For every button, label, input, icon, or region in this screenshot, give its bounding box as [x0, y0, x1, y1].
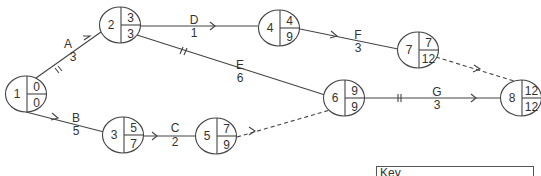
node-latest-time: 12: [422, 52, 436, 66]
activity-e-duration: 6: [237, 71, 244, 85]
node-id: 4: [267, 21, 274, 35]
node-earliest-time: 5: [130, 121, 137, 135]
dummy-activity-5-6: [237, 110, 330, 137]
arrowhead-icon: [473, 65, 480, 72]
node-id: 6: [332, 91, 339, 105]
event-node: 81212: [501, 80, 541, 116]
node-earliest-time: 0: [33, 80, 40, 94]
activity-c-duration: 2: [172, 135, 179, 149]
event-node: 579: [196, 118, 237, 154]
activity-d-label: D: [190, 13, 199, 27]
node-latest-time: 3: [127, 27, 134, 41]
activity-b-arrow: [26, 112, 104, 132]
dummy-activity-7-8: [436, 57, 514, 81]
activity-d-arrow: [140, 22, 258, 30]
node-latest-time: 7: [130, 137, 137, 151]
critical-tick-icon: [55, 66, 62, 73]
activity-c-arrow: [143, 132, 196, 140]
event-node: 357: [103, 117, 144, 153]
activity-e-arrow: [137, 35, 325, 95]
activity-c-label: C: [171, 121, 180, 135]
event-node: 449: [259, 10, 300, 46]
node-earliest-time: 9: [351, 84, 358, 98]
activity-g-label: G: [432, 85, 441, 99]
network-diagram: A 3 B 5 C 2 D 1 E 6 F 3 G 3 100233357449…: [0, 0, 541, 176]
node-earliest-time: 7: [425, 36, 432, 50]
key-box: Key: [376, 166, 534, 176]
arrowhead-icon: [330, 31, 337, 38]
activity-b-label: B: [72, 111, 80, 125]
node-id: 2: [108, 18, 115, 32]
node-latest-time: 0: [33, 96, 40, 110]
activity-a-duration: 3: [70, 50, 77, 64]
activity-b-duration: 5: [73, 124, 80, 138]
event-node: 100: [6, 76, 47, 112]
node-id: 7: [406, 43, 413, 57]
node-earliest-time: 12: [525, 84, 539, 98]
event-node: 7712: [398, 32, 439, 68]
node-id: 5: [204, 129, 211, 143]
activity-g-duration: 3: [434, 98, 441, 112]
arrowhead-icon: [83, 36, 90, 40]
node-id: 8: [509, 91, 516, 105]
node-latest-time: 12: [525, 100, 539, 114]
activity-a-label: A: [64, 37, 72, 51]
activity-f-label: F: [354, 28, 361, 42]
key-title: Key: [380, 167, 401, 176]
activity-f-duration: 3: [355, 41, 362, 55]
node-id: 1: [14, 87, 21, 101]
node-latest-time: 9: [351, 100, 358, 114]
activity-d-duration: 1: [191, 26, 198, 40]
node-latest-time: 9: [223, 138, 230, 152]
arrowhead-icon: [249, 127, 255, 135]
activity-e-label: E: [236, 58, 244, 72]
node-earliest-time: 7: [223, 122, 230, 136]
activity-f-arrow: [300, 29, 398, 49]
event-node: 233: [100, 7, 141, 43]
event-node: 699: [324, 80, 365, 116]
node-earliest-time: 4: [286, 14, 293, 28]
node-earliest-time: 3: [127, 11, 134, 25]
node-latest-time: 9: [286, 30, 293, 44]
critical-tick-icon: [180, 47, 187, 55]
node-id: 3: [111, 128, 118, 142]
